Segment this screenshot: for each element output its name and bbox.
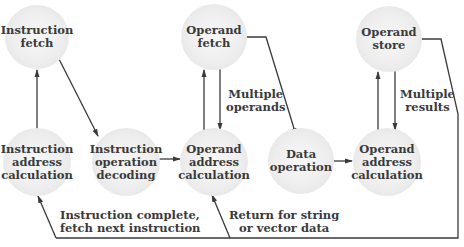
- node-label: Operand address calculation: [351, 143, 423, 182]
- node-operand-fetch: Operand fetch: [181, 4, 247, 70]
- label-multiple-results: Multiple results: [400, 88, 455, 114]
- node-label: Data operation: [270, 148, 332, 174]
- label-return-for-string: Return for string or vector data: [229, 209, 339, 235]
- node-instruction-operation-decoding: Instruction operation decoding: [92, 128, 160, 196]
- node-label: Operand store: [361, 26, 416, 52]
- node-data-operation: Data operation: [268, 128, 334, 194]
- node-operand-address-calculation-2: Operand address calculation: [353, 128, 421, 196]
- node-label: Instruction operation decoding: [90, 143, 163, 182]
- node-operand-address-calculation-1: Operand address calculation: [180, 128, 248, 196]
- node-operand-store: Operand store: [356, 6, 422, 72]
- label-instruction-complete: Instruction complete, fetch next instruc…: [60, 209, 200, 235]
- node-label: Operand fetch: [186, 24, 241, 50]
- node-instruction-fetch: Instruction fetch: [5, 5, 69, 69]
- node-instruction-address-calculation: Instruction address calculation: [3, 128, 71, 196]
- node-label: Instruction address calculation: [1, 143, 74, 182]
- node-label: Operand address calculation: [178, 143, 250, 182]
- node-label: Instruction fetch: [1, 24, 74, 50]
- label-multiple-operands: Multiple operands: [226, 88, 285, 114]
